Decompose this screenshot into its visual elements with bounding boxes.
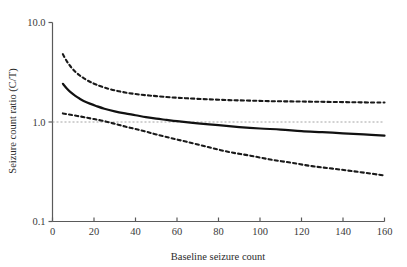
x-tick-label: 0: [50, 226, 55, 237]
y-tick-label: 10.0: [27, 17, 45, 28]
y-tick-label: 0.1: [32, 216, 45, 227]
x-tick-label: 140: [335, 226, 351, 237]
x-tick-label: 80: [213, 226, 224, 237]
x-tick-label: 60: [172, 226, 183, 237]
y-axis-title: Seizure count ratio (C/T): [7, 68, 19, 174]
x-tick-label: 160: [377, 226, 393, 237]
x-tick-label: 120: [294, 226, 310, 237]
x-axis-title: Baseline seizure count: [171, 251, 266, 262]
figure-chart-seizure-count-ratio: 0.11.010.0 020406080100120140160 Baselin…: [0, 0, 407, 267]
x-tick-label: 100: [252, 226, 268, 237]
x-tick-label: 40: [130, 226, 141, 237]
x-tick-label: 20: [89, 226, 100, 237]
y-tick-label: 1.0: [32, 117, 45, 128]
chart-canvas: 0.11.010.0 020406080100120140160 Baselin…: [0, 0, 407, 267]
